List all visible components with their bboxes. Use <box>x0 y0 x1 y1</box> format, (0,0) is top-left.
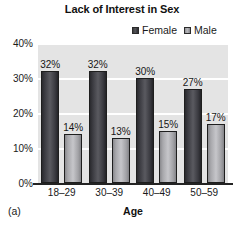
chart-title: Lack of Interest in Sex <box>0 3 244 15</box>
bar-group-30-39: 32% 13% <box>86 43 134 183</box>
bar-value-label-male-30-39: 13% <box>111 127 131 137</box>
legend-item-male[interactable]: Male <box>184 25 217 36</box>
bar-value-label-male-18-29: 14% <box>63 123 83 133</box>
x-tick-label-40-49: 40–49 <box>133 188 181 198</box>
bar-male-30-39[interactable]: 13% <box>112 138 130 184</box>
bar-male-18-29[interactable]: 14% <box>64 134 82 183</box>
bar-group-50-59: 27% 17% <box>181 43 229 183</box>
y-axis-labels: 40% 30% 20% 10% 0% <box>0 0 33 235</box>
x-tick-label-18-29: 18–29 <box>38 188 86 198</box>
bar-female-40-49[interactable]: 30% <box>136 78 154 183</box>
panel-label: (a) <box>8 205 21 217</box>
bar-group-18-29: 32% 14% <box>38 43 86 183</box>
legend-swatch-male-icon <box>184 27 191 34</box>
bar-male-40-49[interactable]: 15% <box>159 131 177 184</box>
bar-value-label-female-40-49: 30% <box>135 67 155 77</box>
bar-value-label-male-50-59: 17% <box>206 113 226 123</box>
bar-female-30-39[interactable]: 32% <box>89 71 107 183</box>
x-tick-label-50-59: 50–59 <box>181 188 229 198</box>
bar-groups: 32% 14% 32% 13% 30% 15% <box>38 43 228 183</box>
x-axis-title: Age <box>38 205 228 217</box>
y-tick-label-40: 40% <box>0 39 33 49</box>
bar-value-label-female-30-39: 32% <box>88 60 108 70</box>
x-axis-line <box>33 183 233 185</box>
bar-value-label-female-50-59: 27% <box>183 78 203 88</box>
bar-value-label-male-40-49: 15% <box>158 120 178 130</box>
y-tick-label-30: 30% <box>0 74 33 84</box>
legend-swatch-female-icon <box>132 27 139 34</box>
bar-female-18-29[interactable]: 32% <box>41 71 59 183</box>
legend-label-male: Male <box>194 25 217 36</box>
chart-legend: Female Male <box>132 25 217 36</box>
legend-label-female: Female <box>142 25 177 36</box>
y-tick-label-10: 10% <box>0 144 33 154</box>
x-axis-labels: 18–29 30–39 40–49 50–59 <box>38 188 228 198</box>
y-tick-label-20: 20% <box>0 109 33 119</box>
x-tick-label-30-39: 30–39 <box>86 188 134 198</box>
figure-panel-a: Lack of Interest in Sex Female Male 40% … <box>0 0 244 235</box>
bar-value-label-female-18-29: 32% <box>40 60 60 70</box>
y-tick-label-0: 0% <box>0 179 33 189</box>
bar-group-40-49: 30% 15% <box>133 43 181 183</box>
legend-item-female[interactable]: Female <box>132 25 177 36</box>
plot-area: 32% 14% 32% 13% 30% 15% <box>38 43 228 183</box>
bar-male-50-59[interactable]: 17% <box>207 124 225 184</box>
bar-female-50-59[interactable]: 27% <box>184 89 202 184</box>
